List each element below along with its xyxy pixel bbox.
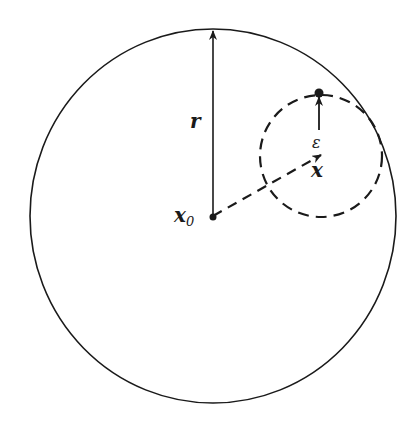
- radius-label: r: [190, 109, 202, 133]
- center-x0-subscript: 0: [186, 214, 194, 229]
- boundary-point: [315, 89, 324, 98]
- center-point-x0: [210, 214, 217, 221]
- epsilon-label: ε: [312, 133, 321, 152]
- center-vector-arrow: [213, 155, 321, 216]
- center-x-label: x: [310, 158, 324, 182]
- ball-diagram: r x0 ε x: [0, 0, 415, 426]
- center-x0-base: x: [173, 203, 187, 227]
- center-x0-label: x0: [173, 203, 194, 229]
